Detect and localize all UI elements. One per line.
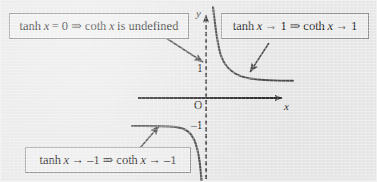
callout-plus-one-leader	[250, 43, 269, 72]
callout-minus-one-text: tanh x → –1 ⇒ coth x → –1	[39, 154, 176, 167]
callout-undefined-text: tanh x = 0 ⇒ coth x is undefined	[20, 20, 179, 33]
x-axis-label: x	[284, 101, 289, 112]
y-tick-label-neg-one: –1	[191, 120, 203, 132]
callout-tanh-to-one: tanh x → 1 ⇒ coth x → 1	[221, 13, 369, 39]
origin-label: O	[194, 100, 202, 112]
callout-minus-one-leader	[140, 126, 159, 148]
coth-graph-figure: y x O 1 –1 tanh x = 0 ⇒ coth x is undefi…	[0, 0, 377, 182]
callout-tanh-zero-undefined: tanh x = 0 ⇒ coth x is undefined	[9, 13, 189, 39]
callout-tanh-to-minus-one: tanh x → –1 ⇒ coth x → –1	[25, 147, 191, 173]
y-tick-label-one: 1	[197, 63, 203, 75]
callout-plus-one-text: tanh x → 1 ⇒ coth x → 1	[233, 20, 358, 33]
y-axis-label: y	[196, 8, 201, 19]
callout-undefined-leader	[166, 38, 203, 62]
